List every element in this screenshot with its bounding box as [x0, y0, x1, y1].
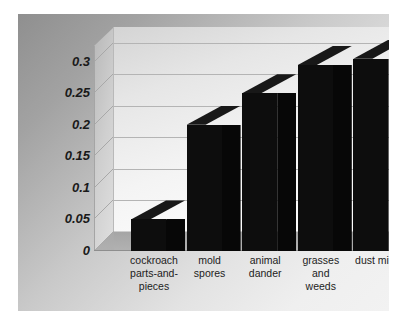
back-wall-edge [113, 27, 114, 232]
bar-side-face [333, 65, 352, 251]
bar[interactable] [242, 74, 296, 251]
gridline-depth-connector [94, 169, 114, 188]
bar[interactable] [353, 40, 389, 251]
bar-front-face [298, 65, 333, 251]
bar-top-face [298, 46, 352, 65]
bar[interactable] [131, 200, 185, 251]
bar[interactable] [298, 46, 352, 251]
gridline-depth-connector [94, 200, 114, 219]
y-axis-tick-label: 0.3 [28, 55, 90, 68]
chart-screenshot: 0.30.250.20.150.10.050 cockroach parts-a… [0, 0, 407, 325]
bar[interactable] [187, 106, 241, 251]
bar-front-face [187, 125, 222, 251]
value-axis-line [94, 46, 95, 251]
chart-panel: 0.30.250.20.150.10.050 cockroach parts-a… [18, 14, 389, 311]
bar-side-face [277, 93, 296, 251]
bar-side-face [222, 125, 241, 251]
bar-top-face [353, 40, 389, 59]
bar-side-face [166, 219, 185, 251]
y-axis-tick-label: 0.15 [28, 149, 90, 162]
y-axis-tick-label: 0.2 [28, 118, 90, 131]
x-axis-category-label: dust mite [337, 254, 389, 267]
gridline-depth-connector [94, 106, 114, 125]
bar-front-face [353, 59, 388, 251]
gridline-depth-connector [94, 43, 114, 62]
bar-top-face [187, 106, 241, 125]
y-axis-tick-label: 0.1 [28, 181, 90, 194]
gridline-depth-connector [94, 74, 114, 93]
bar-top-face [131, 200, 185, 219]
bar-front-face [131, 219, 166, 251]
y-axis-tick-label: 0.05 [28, 212, 90, 225]
bar-top-face [242, 74, 296, 93]
bar-front-face [242, 93, 277, 251]
gridline [113, 43, 389, 44]
y-axis-tick-label: 0.25 [28, 86, 90, 99]
bar-side-face [388, 59, 389, 251]
x-axis-category-labels: cockroach parts-and- piecesmold sporesan… [18, 254, 389, 311]
gridline-depth-connector [94, 137, 114, 156]
